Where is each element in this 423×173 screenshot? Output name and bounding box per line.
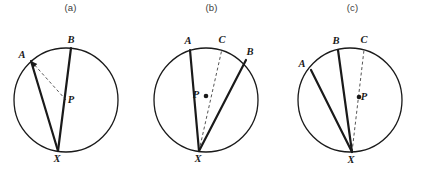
point-label-P: P [361, 91, 368, 102]
point-label-B: B [331, 35, 339, 46]
point-label-P: P [193, 89, 200, 100]
panel-b: (b) ACBXP [141, 0, 282, 173]
point-label-P: P [68, 94, 75, 105]
chord-XA [31, 61, 58, 151]
chord-XB [199, 60, 246, 151]
point-label-A: A [297, 58, 305, 69]
point-label-B: B [245, 46, 253, 57]
point-label-C: C [360, 34, 368, 45]
point-label-A: A [183, 35, 191, 46]
dashed-segment-XC [199, 49, 222, 151]
point-label-B: B [66, 34, 74, 45]
center-point-dot [204, 94, 209, 99]
geometry-figure: (a) ABXP (b) ACBXP (c) BCAXP [0, 0, 423, 173]
point-label-A: A [17, 49, 25, 60]
panel-b-diagram: ACBXP [141, 0, 282, 173]
point-label-X: X [346, 154, 355, 165]
chord-XA [190, 50, 199, 151]
point-label-C: C [218, 34, 226, 45]
panel-a: (a) ABXP [0, 0, 141, 173]
panel-c: (c) BCAXP [282, 0, 423, 173]
point-label-X: X [193, 153, 202, 164]
panel-c-diagram: BCAXP [282, 0, 423, 173]
panel-a-diagram: ABXP [0, 0, 141, 173]
point-label-X: X [52, 153, 61, 164]
